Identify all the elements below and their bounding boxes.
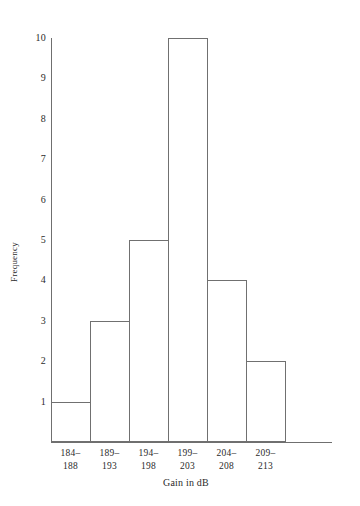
y-axis-tick-label: 5 bbox=[24, 235, 46, 245]
x-axis-tick-label: 194–198 bbox=[129, 447, 168, 473]
histogram-bar bbox=[207, 280, 247, 442]
y-axis-tick-label: 2 bbox=[24, 356, 46, 366]
x-tick-label-lower: 188 bbox=[51, 460, 90, 473]
x-tick-label-upper: 199– bbox=[168, 447, 207, 460]
y-axis-tick-label: 8 bbox=[24, 114, 46, 124]
histogram-bars bbox=[51, 38, 285, 442]
x-tick-label-upper: 184– bbox=[51, 447, 90, 460]
y-axis-tick-label: 1 bbox=[24, 397, 46, 407]
x-axis-line bbox=[51, 442, 332, 443]
x-axis-tick-label: 199–203 bbox=[168, 447, 207, 473]
y-axis-tick-label: 7 bbox=[24, 154, 46, 164]
histogram-bar bbox=[129, 240, 169, 442]
y-axis-tick-labels: 12345678910 bbox=[24, 0, 46, 506]
x-axis-tick-label: 189–193 bbox=[90, 447, 129, 473]
x-tick-label-lower: 198 bbox=[129, 460, 168, 473]
x-tick-label-upper: 189– bbox=[90, 447, 129, 460]
x-tick-label-upper: 194– bbox=[129, 447, 168, 460]
x-tick-label-lower: 213 bbox=[246, 460, 285, 473]
histogram-bar bbox=[90, 321, 130, 442]
x-axis-tick-label: 204–208 bbox=[207, 447, 246, 473]
x-tick-label-lower: 203 bbox=[168, 460, 207, 473]
histogram-bar bbox=[51, 402, 91, 442]
histogram-bar bbox=[246, 361, 286, 442]
y-axis-tick-label: 3 bbox=[24, 316, 46, 326]
x-axis-title: Gain in dB bbox=[51, 477, 321, 489]
y-axis-tick-label: 9 bbox=[24, 73, 46, 83]
x-tick-label-lower: 193 bbox=[90, 460, 129, 473]
x-axis-tick-label: 209–213 bbox=[246, 447, 285, 473]
x-tick-label-lower: 208 bbox=[207, 460, 246, 473]
y-axis-tick-label: 10 bbox=[24, 33, 46, 43]
x-tick-label-upper: 209– bbox=[246, 447, 285, 460]
y-axis-tick-label: 4 bbox=[24, 275, 46, 285]
y-axis-tick-label: 6 bbox=[24, 195, 46, 205]
x-axis-tick-label: 184–188 bbox=[51, 447, 90, 473]
x-tick-label-upper: 204– bbox=[207, 447, 246, 460]
histogram-bar bbox=[168, 38, 208, 442]
histogram-figure: 12345678910 Frequency 184–188189–193194–… bbox=[0, 0, 360, 506]
y-axis-title: Frequency bbox=[10, 242, 19, 282]
